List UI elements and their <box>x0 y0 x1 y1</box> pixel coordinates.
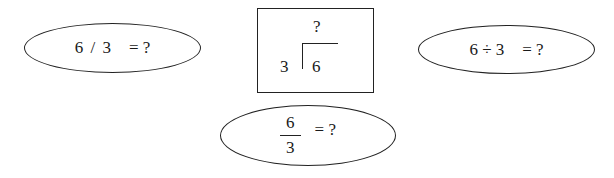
fraction-equals: = ? <box>315 120 336 140</box>
long-division-dividend: 6 <box>312 57 321 77</box>
long-division-box: ? 3 6 <box>257 8 374 93</box>
slash-expression: 6 / 3 <box>75 38 111 58</box>
obelus-equals: = ? <box>522 40 543 60</box>
slash-equals: = ? <box>129 38 150 58</box>
long-division-quotient: ? <box>313 17 321 37</box>
fraction-denominator: 3 <box>286 136 295 158</box>
slash-division-ellipse: 6 / 3 = ? <box>24 23 201 73</box>
obelus-division-ellipse: 6 ÷ 3 = ? <box>418 25 595 74</box>
fraction-division-ellipse: 6 3 = ? <box>220 105 396 166</box>
long-division-divisor: 3 <box>280 57 289 77</box>
fraction-numerator: 6 <box>280 113 301 136</box>
obelus-expression: 6 ÷ 3 <box>469 40 504 60</box>
fraction: 6 3 <box>280 113 301 158</box>
